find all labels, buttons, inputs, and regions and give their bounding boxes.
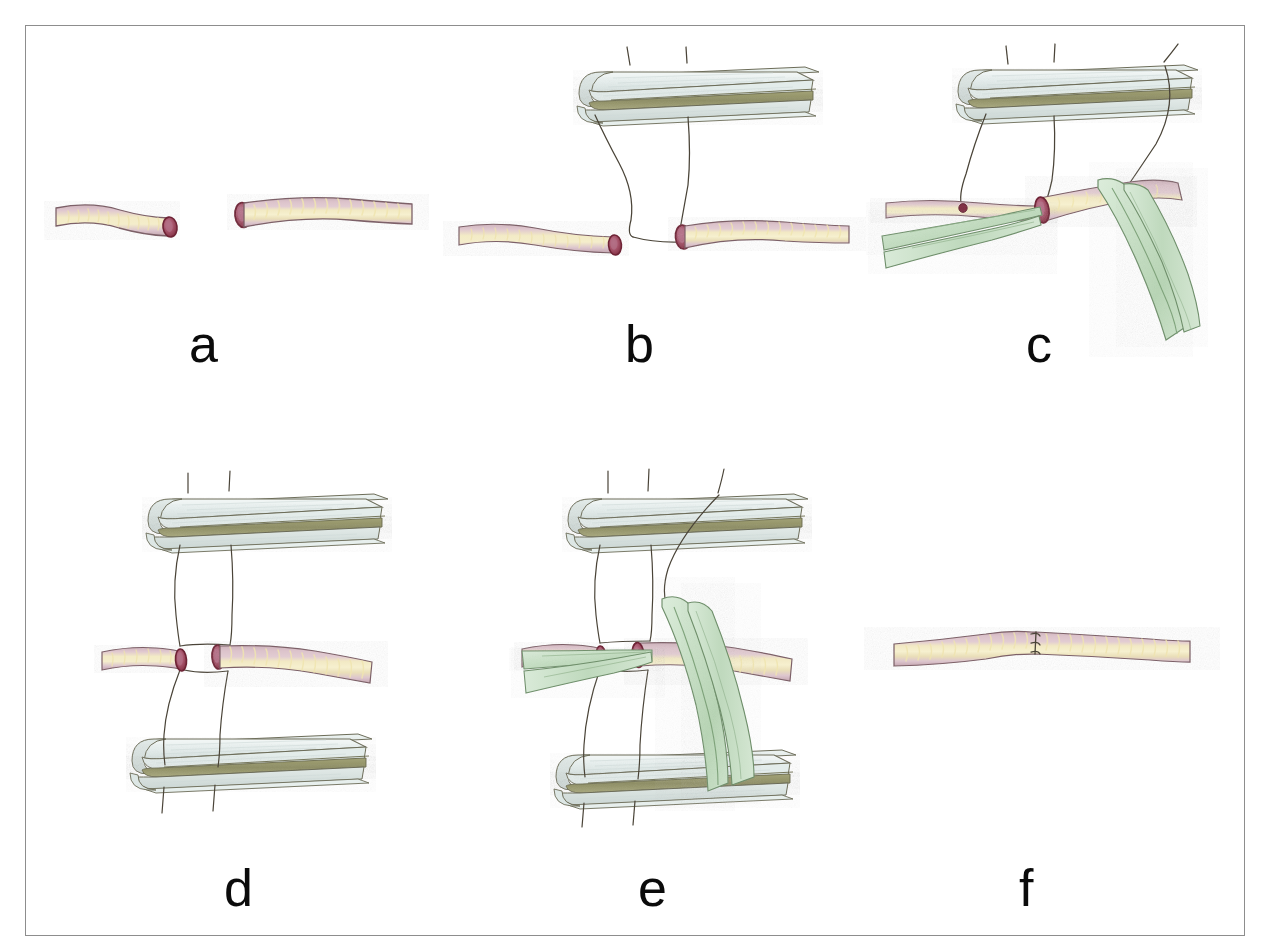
- vessel-stump-left: [56, 205, 178, 238]
- panel-b: [455, 45, 855, 295]
- panel-label-c: c: [1026, 318, 1052, 370]
- vessel-stump-right: [234, 198, 412, 229]
- panel-f: [890, 610, 1200, 710]
- vessel-stump-right: [674, 221, 849, 250]
- sponge-block-lower: [554, 750, 796, 809]
- panel-label-f: f: [1019, 862, 1033, 914]
- panel-d: [100, 465, 420, 820]
- figure-root: a: [0, 0, 1263, 951]
- suture-knot: [959, 204, 967, 213]
- panel-label-e: e: [638, 862, 667, 914]
- vessel-stump-right: [211, 645, 372, 683]
- panel-c: [880, 40, 1240, 350]
- sponge-block-upper: [146, 494, 388, 553]
- forceps-right: [1098, 179, 1200, 340]
- vessel-anastomosed: [894, 631, 1190, 666]
- sponge-block-upper: [956, 65, 1198, 124]
- panel-label-d: d: [224, 862, 253, 914]
- sponge-block-upper: [566, 494, 808, 553]
- panel-a: [40, 170, 440, 290]
- sponge-block-lower: [130, 734, 372, 793]
- panel-label-a: a: [189, 318, 218, 370]
- panel-label-b: b: [625, 318, 654, 370]
- panel-e: [520, 465, 840, 830]
- vessel-stump-left: [459, 224, 622, 255]
- vessel-stump-left: [102, 648, 187, 672]
- sponge-block-upper: [577, 67, 819, 126]
